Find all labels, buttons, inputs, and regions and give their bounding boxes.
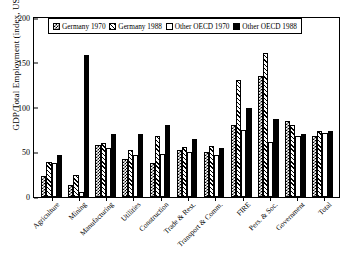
bar-group <box>38 18 65 197</box>
y-axis-tick-label: 150 <box>18 58 34 67</box>
bar-group <box>65 18 92 197</box>
chart-legend: Germany 1970Germany 1988Other OECD 1970O… <box>48 18 302 34</box>
bar <box>246 108 251 198</box>
legend-label: Other OECD 1988 <box>242 22 297 31</box>
legend-item: Other OECD 1988 <box>233 22 297 31</box>
bar <box>165 125 170 197</box>
bar-group <box>173 18 200 197</box>
legend-swatch-icon <box>53 23 60 30</box>
legend-swatch-icon <box>109 23 116 30</box>
bar-group <box>228 18 255 197</box>
legend-item: Other OECD 1970 <box>166 22 230 31</box>
bar-group <box>309 18 336 197</box>
bar <box>84 55 89 197</box>
bar-group <box>201 18 228 197</box>
legend-swatch-icon <box>233 23 240 30</box>
legend-swatch-icon <box>166 23 173 30</box>
bar-group <box>146 18 173 197</box>
bar <box>301 134 306 197</box>
bar <box>138 134 143 197</box>
bar-group <box>282 18 309 197</box>
bar-chart: GDP/Total Employment (index, US = 100) 0… <box>0 0 351 257</box>
y-axis-tick-label: 50 <box>22 148 34 157</box>
x-axis-label: Utilities <box>120 200 143 223</box>
bar <box>57 155 62 197</box>
legend-item: Germany 1970 <box>53 22 106 31</box>
x-axis-label: Agriculture <box>31 200 61 230</box>
legend-label: Germany 1970 <box>62 22 106 31</box>
x-axis-labels: AgricultureMiningManufacturingUtilitiesC… <box>33 200 340 257</box>
legend-label: Germany 1988 <box>118 22 162 31</box>
bar <box>192 139 197 197</box>
y-axis-tick-label: 100 <box>18 103 34 112</box>
bar-group <box>92 18 119 197</box>
plot-area: 050100150200 <box>33 17 340 198</box>
x-axis-label: Mining <box>67 200 89 222</box>
bar <box>273 119 278 197</box>
bar <box>219 148 224 197</box>
bar <box>328 131 333 197</box>
x-axis-label: FIRE <box>234 200 252 218</box>
x-axis-label: Total <box>317 200 334 217</box>
bar <box>111 134 116 197</box>
legend-item: Germany 1988 <box>109 22 162 31</box>
bar-groups <box>34 18 339 197</box>
bar-group <box>119 18 146 197</box>
bar-group <box>255 18 282 197</box>
y-axis-tick-label: 200 <box>18 14 34 23</box>
legend-label: Other OECD 1970 <box>175 22 230 31</box>
